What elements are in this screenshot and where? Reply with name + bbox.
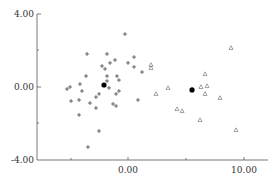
triangle-marker: [218, 96, 222, 100]
y-tick-label-top: 4.00: [14, 9, 34, 19]
x-tick-label-ten: 10.00: [231, 165, 257, 175]
series-cluster-1: [65, 32, 144, 149]
triangle-marker: [234, 128, 238, 132]
plus-marker: [97, 129, 101, 133]
triangle-marker: [229, 46, 233, 50]
plus-marker: [114, 92, 118, 96]
plus-marker: [113, 58, 117, 62]
scatter-chart: 4.00 0.00 -4.00 0.00 10.00: [0, 0, 276, 184]
plus-marker: [80, 89, 84, 93]
plus-marker: [86, 145, 90, 149]
plus-marker: [114, 104, 118, 108]
plus-marker: [117, 78, 121, 82]
centroid-marker: [101, 82, 106, 87]
plus-marker: [140, 70, 144, 74]
plus-marker: [132, 65, 136, 69]
x-axis: 0.00 10.00: [37, 157, 268, 175]
centroid-marker: [189, 87, 194, 92]
plus-marker: [78, 82, 82, 86]
x-tick-label-zero: 0.00: [118, 165, 138, 175]
triangle-marker: [154, 92, 158, 96]
plus-marker: [123, 32, 127, 36]
plus-marker: [68, 85, 72, 89]
y-tick-label-bottom: -4.00: [11, 155, 34, 165]
plus-marker: [108, 61, 112, 65]
plus-marker: [69, 99, 73, 103]
plus-marker: [100, 64, 104, 68]
plus-marker: [132, 55, 136, 59]
plus-marker: [84, 74, 88, 78]
plus-marker: [103, 67, 107, 71]
plus-marker: [105, 74, 109, 78]
triangle-marker: [198, 118, 202, 122]
plus-marker: [65, 87, 69, 91]
triangle-marker: [175, 107, 179, 111]
triangle-marker: [203, 72, 207, 76]
plus-marker: [85, 52, 89, 56]
plus-marker: [136, 98, 140, 102]
plus-marker: [77, 113, 81, 117]
plus-marker: [88, 101, 92, 105]
plus-marker: [115, 74, 119, 78]
plus-marker: [94, 95, 98, 99]
series-centroids: [101, 82, 194, 92]
plus-marker: [117, 89, 121, 93]
plus-marker: [94, 106, 98, 110]
plus-marker: [105, 52, 109, 56]
triangle-marker: [180, 109, 184, 113]
y-tick-label-zero: 0.00: [14, 82, 34, 92]
triangle-marker: [203, 92, 207, 96]
triangle-marker: [199, 85, 203, 89]
triangle-marker: [166, 86, 170, 90]
plus-marker: [105, 79, 109, 83]
plus-marker: [97, 92, 101, 96]
plus-marker: [77, 98, 81, 102]
plus-marker: [107, 86, 111, 90]
plot-area: [65, 32, 238, 149]
y-axis: 4.00 0.00 -4.00: [11, 9, 41, 165]
plus-marker: [126, 61, 130, 65]
triangle-marker: [205, 84, 209, 88]
plus-marker: [111, 102, 115, 106]
